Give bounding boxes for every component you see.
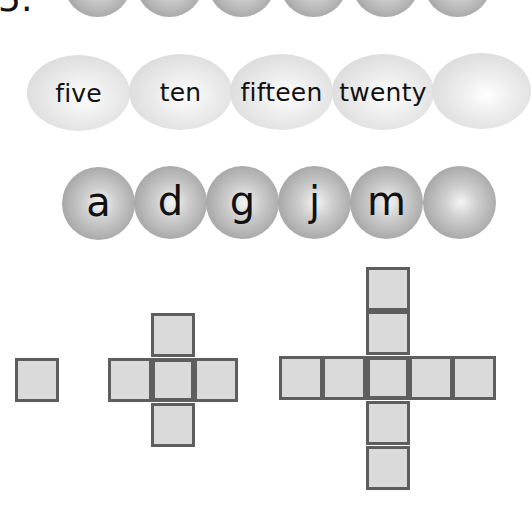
sequence-ball: g [206,166,279,239]
item-number-label: 5. [0,0,32,19]
sequence-ball: m [350,166,423,239]
square-tile [194,358,238,402]
square-tile [322,356,366,400]
square-tile [452,356,496,400]
sequence-ball-blank [424,0,491,17]
square-tile [108,358,152,402]
sequence-oval: ten [129,54,232,130]
sequence-ball: 2 [136,0,203,17]
square-tile [366,311,410,355]
sequence-oval: five [27,55,130,131]
square-tile [366,401,410,445]
sequence-oval: twenty [332,54,434,130]
sequence-oval-blank [432,53,531,129]
square-tile-center [151,358,195,402]
square-tile-center [366,356,410,400]
sequence-ball: 5 [352,0,419,17]
square-tile [151,403,195,447]
square-tile [366,446,410,490]
sequence-ball: 1 [64,0,131,17]
sequence-ball: 4 [280,0,347,17]
sequence-ball-blank [423,166,496,239]
sequence-ball: d [134,166,207,239]
square-tile [279,356,323,400]
square-tile [409,356,453,400]
sequence-ball: a [62,167,135,240]
square-tile [366,267,410,311]
square-tile [151,313,195,357]
square-tile [15,358,59,402]
sequence-ball: j [278,166,351,239]
sequence-ball: 3 [208,0,275,17]
sequence-oval: fifteen [230,54,333,130]
